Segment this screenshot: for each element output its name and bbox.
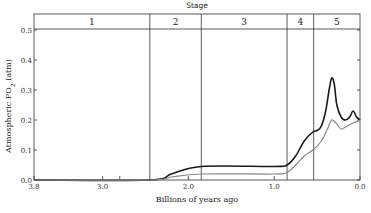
- stage-label: 4: [298, 17, 304, 27]
- plot-frame: [34, 14, 360, 180]
- series-line: [34, 78, 360, 181]
- stage-label: 5: [334, 17, 340, 27]
- x-axis-title: Billions of years ago: [156, 195, 238, 204]
- y-tick-label: 0.5: [21, 27, 32, 35]
- stage-dividers: [150, 14, 314, 180]
- x-axis-ticks: 3.83.02.01.00.0: [28, 176, 365, 191]
- stage-label: 2: [173, 17, 179, 27]
- series-line: [34, 120, 360, 180]
- y-axis-ticks: 0.00.10.20.30.40.5: [21, 27, 360, 185]
- y-axis-title: Atmospheric PO2 (atm): [4, 59, 16, 154]
- data-series: [34, 78, 360, 181]
- x-tick-label: 3.8: [28, 183, 39, 191]
- y-tick-label: 0.1: [21, 147, 32, 155]
- stage-header: Stage: [186, 1, 208, 10]
- oxygen-chart: Stage 12345 0.00.10.20.30.40.5 3.83.02.0…: [0, 0, 371, 213]
- x-tick-label: 3.0: [97, 183, 108, 191]
- x-tick-label: 1.0: [269, 183, 280, 191]
- y-tick-label: 0.3: [21, 87, 32, 95]
- stage-labels: 12345: [89, 17, 340, 27]
- x-tick-label: 0.0: [354, 183, 365, 191]
- y-tick-label: 0.2: [21, 117, 32, 125]
- y-tick-label: 0.4: [21, 57, 33, 65]
- x-tick-label: 2.0: [183, 183, 194, 191]
- stage-label: 3: [241, 17, 247, 27]
- stage-label: 1: [89, 17, 95, 27]
